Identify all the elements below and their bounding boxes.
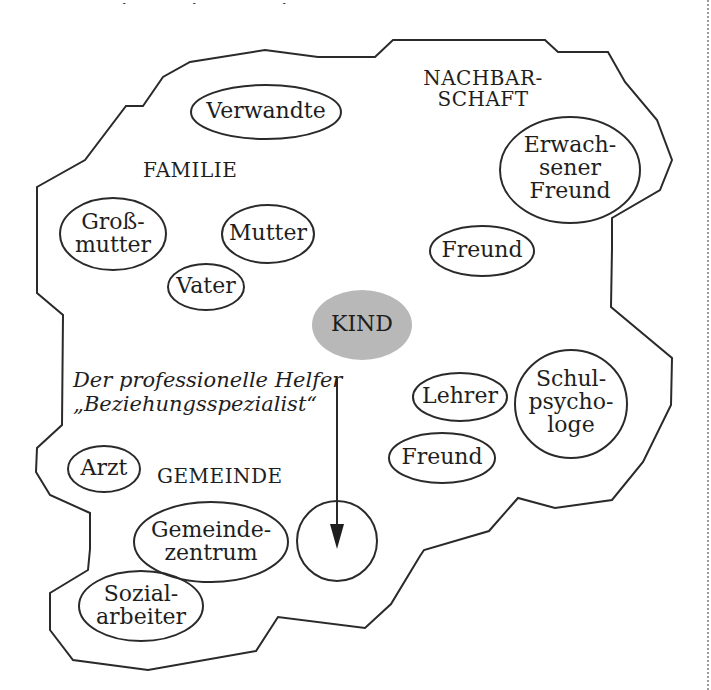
node-label-lehrer: Lehrer (413, 384, 507, 407)
node-label-line: sener (500, 156, 640, 179)
node-label-grossmutter: Groß- mutter (60, 210, 166, 256)
node-label-line: Erwach- (500, 133, 640, 156)
node-label-freund-neighborhood: Freund (430, 238, 534, 261)
region-label-familie: FAMILIE (143, 160, 237, 181)
region-label-gemeinde: GEMEINDE (157, 466, 283, 487)
node-label-line: Freund (500, 179, 640, 202)
node-label-line: zentrum (134, 541, 288, 564)
node-label-erwachsener-freund: Erwach- sener Freund (500, 133, 640, 202)
node-label-line: Schul- (515, 367, 627, 390)
region-label-line: NACHBAR- (403, 68, 563, 89)
node-label-schulpsychologe: Schul- psycho- loge (515, 367, 627, 436)
node-label-verwandte: Verwandte (191, 99, 341, 122)
node-label-line: loge (515, 413, 627, 436)
node-label-line: mutter (60, 233, 166, 256)
node-label-gemeindezentrum: Gemeinde- zentrum (134, 518, 288, 564)
arrow-head-icon (330, 524, 344, 549)
helper-annotation-line: „Beziehungsspezialist“ (73, 392, 342, 416)
helper-annotation: Der professionelle Helfer „Beziehungsspe… (73, 368, 342, 416)
node-label-line: psycho- (515, 390, 627, 413)
node-label-mutter: Mutter (222, 221, 314, 244)
node-label-sozialarbeiter: Sozial- arbeiter (79, 582, 203, 628)
node-label-line: arbeiter (79, 605, 203, 628)
region-label-line: SCHAFT (403, 89, 563, 110)
node-label-line: Sozial- (79, 582, 203, 605)
center-label-kind: KIND (312, 312, 412, 335)
helper-annotation-line: Der professionelle Helfer (73, 368, 342, 392)
node-label-arzt: Arzt (68, 456, 140, 479)
node-label-vater: Vater (168, 274, 244, 297)
node-label-freund-school: Freund (389, 445, 495, 468)
region-label-nachbarschaft: NACHBAR- SCHAFT (403, 68, 563, 110)
node-label-line: Gemeinde- (134, 518, 288, 541)
node-label-line: Groß- (60, 210, 166, 233)
